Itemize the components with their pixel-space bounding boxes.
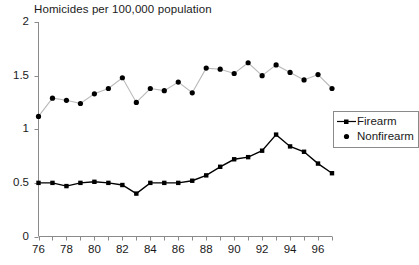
data-point [316, 161, 320, 165]
data-point [134, 100, 139, 105]
data-point [330, 171, 334, 175]
axes [39, 22, 333, 237]
data-point [288, 144, 292, 148]
data-point [232, 71, 237, 76]
data-point [162, 88, 167, 93]
data-point [50, 181, 54, 185]
data-point [64, 184, 68, 188]
data-point [301, 77, 306, 82]
series-nonfirearm [36, 60, 335, 119]
data-point [92, 91, 97, 96]
legend-label-nonfirearm: Nonfirearm [357, 131, 414, 143]
x-tick-label: 82 [110, 243, 134, 255]
data-point [204, 66, 209, 71]
y-tick-label: 1 [3, 122, 29, 134]
x-tick-label: 84 [138, 243, 162, 255]
x-tick-label: 78 [54, 243, 78, 255]
data-point [274, 62, 279, 67]
x-tick-label: 86 [166, 243, 190, 255]
y-tick-label: 1.5 [3, 69, 29, 81]
data-point [106, 86, 111, 91]
data-point [64, 98, 69, 103]
x-tick-label: 90 [222, 243, 246, 255]
y-tick-label: 2 [3, 15, 29, 27]
data-point [176, 79, 181, 84]
legend-line-marker-icon [337, 116, 356, 127]
data-point [246, 155, 250, 159]
y-tick-label: 0.5 [3, 176, 29, 188]
data-point [302, 150, 306, 154]
y-tick-marks [35, 23, 39, 238]
legend-dot-marker-icon [337, 131, 356, 142]
data-point [78, 181, 82, 185]
data-point [120, 75, 125, 80]
x-tick-label: 80 [82, 243, 106, 255]
data-point [232, 157, 236, 161]
data-point [260, 149, 264, 153]
x-tick-label: 92 [250, 243, 274, 255]
data-point [218, 165, 222, 169]
y-tick-label: 0 [3, 230, 29, 242]
x-tick-label: 76 [27, 243, 51, 255]
series-firearm [36, 132, 334, 195]
x-tick-marks [40, 237, 333, 241]
data-point [162, 181, 166, 185]
data-point [148, 181, 152, 185]
x-tick-label: 96 [306, 243, 330, 255]
data-point [50, 96, 55, 101]
data-point [120, 183, 124, 187]
data-point [190, 90, 195, 95]
legend-item-nonfirearm[interactable]: Nonfirearm [337, 129, 414, 144]
data-point [148, 86, 153, 91]
series-line [39, 63, 333, 117]
legend-label-firearm: Firearm [357, 116, 397, 128]
chart-legend: Firearm Nonfirearm [333, 111, 419, 148]
data-point [92, 180, 96, 184]
data-point [246, 60, 251, 65]
x-tick-label: 88 [194, 243, 218, 255]
data-point [260, 73, 265, 78]
data-point [106, 181, 110, 185]
data-point [218, 67, 223, 72]
data-point [36, 114, 41, 119]
data-point [274, 132, 278, 136]
data-point [204, 173, 208, 177]
data-point [134, 191, 138, 195]
data-point [287, 70, 292, 75]
data-point [176, 181, 180, 185]
data-point [315, 72, 320, 77]
x-tick-label: 94 [278, 243, 302, 255]
legend-item-firearm[interactable]: Firearm [337, 114, 414, 129]
data-point [36, 181, 40, 185]
data-point [78, 101, 83, 106]
data-point [190, 179, 194, 183]
data-point [329, 86, 334, 91]
